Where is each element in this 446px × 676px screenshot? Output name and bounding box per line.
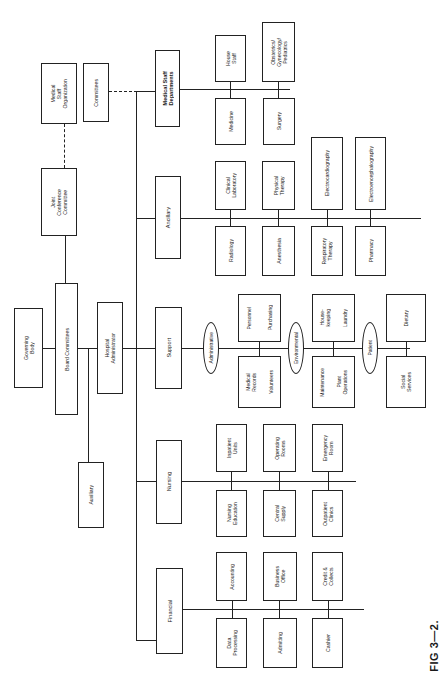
group-label: Administrative	[208, 332, 214, 363]
stub	[327, 210, 328, 226]
rail-nursing	[182, 481, 356, 482]
stub	[370, 210, 371, 226]
box-label: Central Supply	[274, 505, 286, 522]
unit-credit-collects: Credit & Collects	[312, 552, 343, 601]
box-label: Pharmacy	[368, 239, 374, 262]
box-label: Electroencephalography	[368, 146, 374, 202]
box-label: Respiratory Therapy	[321, 238, 333, 265]
box-label: Clinical Laboratory	[225, 173, 237, 198]
box-label: Committees	[93, 79, 99, 107]
stub	[328, 472, 329, 490]
joint-board-connector	[65, 236, 66, 283]
box-label: Joint Conference Committee	[50, 189, 68, 216]
unit-central-supply: Central Supply	[263, 490, 296, 537]
financial-box: Financial	[156, 568, 183, 654]
branch-nursing	[136, 481, 156, 482]
box-label: Dietary	[403, 310, 409, 326]
box-label: Emergency Room	[322, 435, 334, 461]
unit-social-services: Social Services	[386, 356, 426, 408]
box-label: Medicine	[228, 111, 234, 132]
unit-laundry: Laundry	[342, 309, 348, 327]
box-label: Auxiliary	[88, 485, 94, 505]
unit-physical-therapy: Physical Therapy	[262, 161, 295, 210]
hospital-administrator-box: Hospital Administrator	[97, 302, 123, 394]
box-label: Social Services	[400, 372, 412, 392]
box-label: Medical Staff Departments	[162, 71, 174, 106]
stub	[278, 210, 279, 226]
box-label: Outpatient Clinics	[322, 502, 334, 526]
unit-ob-gyn-peds: Obstetrics/ Gynecology/ Pediatrics	[262, 22, 295, 82]
box-label: Radiology	[228, 239, 234, 262]
unit-housekeeping: House- keeping	[319, 309, 331, 327]
box-label: Medical Staff Organization	[50, 79, 68, 108]
group-patient-oval: Patient	[362, 322, 378, 374]
unit-cashier: Cashier	[312, 618, 343, 668]
box-label: Accounting	[229, 564, 235, 590]
box-label: Governing Body	[23, 336, 35, 360]
auxiliary-connector	[88, 348, 89, 462]
group-environmental-oval: Environmental	[288, 322, 304, 374]
stub	[259, 342, 260, 356]
unit-inpatient-units: Inpatient Units	[216, 424, 247, 472]
stub	[333, 342, 334, 356]
stub	[279, 472, 280, 490]
msorg-joint-dashed	[64, 124, 65, 168]
figure-caption: FIG 3—2.	[428, 620, 440, 672]
group-label: Patient	[367, 340, 373, 356]
group-administrative-oval: Administrative	[203, 322, 219, 374]
box-label: Surgery	[276, 112, 282, 130]
board-committees-box: Board Committees	[55, 283, 78, 415]
auxiliary-box: Auxiliary	[78, 462, 104, 528]
unit-radiology: Radiology	[215, 226, 246, 276]
medical-staff-organization-box: Medical Staff Organization	[41, 63, 77, 124]
rail-ancillary	[181, 218, 421, 219]
box-label: Nursing	[166, 472, 172, 491]
box-label: Admitting	[277, 632, 283, 654]
box-label: Data Processing	[226, 630, 238, 656]
rail-financial	[183, 609, 364, 610]
stub	[230, 82, 231, 98]
stub	[328, 601, 329, 618]
group-label: Environmental	[293, 332, 299, 364]
box-label: House Staff	[225, 51, 237, 66]
unit-electrocardiography: Electrocardiography	[311, 137, 343, 210]
stub	[232, 601, 233, 618]
unit-clinical-laboratory: Clinical Laboratory	[215, 161, 246, 210]
unit-personnel-purchasing: Personnel Purchasing	[238, 294, 281, 342]
unit-purchasing: Purchasing	[267, 305, 273, 330]
governing-board-connector	[43, 348, 55, 349]
box-label: Ancillary	[165, 207, 171, 228]
main-spine-line	[136, 91, 137, 641]
nursing-box: Nursing	[156, 440, 182, 524]
unit-plant-operations: Plant Operations	[336, 370, 348, 394]
admin-connector	[123, 348, 137, 349]
stub	[406, 342, 407, 356]
unit-house-staff: House Staff	[215, 35, 246, 82]
box-label: Inpatient Units	[226, 438, 238, 458]
box-label: Physical Therapy	[273, 176, 285, 195]
unit-outpatient-clinics: Outpatient Clinics	[312, 490, 343, 537]
unit-records-volunteers: Medical Records Volunteers	[238, 356, 281, 408]
box-label: Financial	[167, 600, 173, 622]
box-label: Board Committees	[64, 328, 70, 371]
box-label: Hospital Administrator	[104, 333, 116, 364]
box-label: Nursing Education	[226, 502, 238, 525]
unit-maintenance-plant: Maintenance Plant Operations	[312, 356, 355, 408]
box-label: Electrocardiography	[324, 150, 330, 196]
unit-respiratory-therapy: Respiratory Therapy	[311, 226, 343, 276]
ancillary-box: Ancillary	[155, 176, 181, 259]
box-label: Credit & Collects	[322, 567, 334, 586]
box-label: Obstetrics/ Gynecology/ Pediatrics	[270, 38, 288, 67]
rail-msd	[180, 89, 290, 90]
unit-admitting: Admitting	[263, 618, 297, 668]
medical-staff-departments-box: Medical Staff Departments	[155, 50, 180, 127]
stub	[279, 601, 280, 618]
stub	[231, 472, 232, 490]
branch-msd	[136, 91, 155, 92]
unit-dietary: Dietary	[386, 294, 426, 342]
unit-medical-records: Medical Records	[245, 373, 257, 392]
unit-nursing-education: Nursing Education	[216, 490, 247, 537]
stub	[230, 210, 231, 226]
box-label: Business Office	[274, 566, 286, 587]
joint-conference-committee-box: Joint Conference Committee	[41, 168, 77, 236]
